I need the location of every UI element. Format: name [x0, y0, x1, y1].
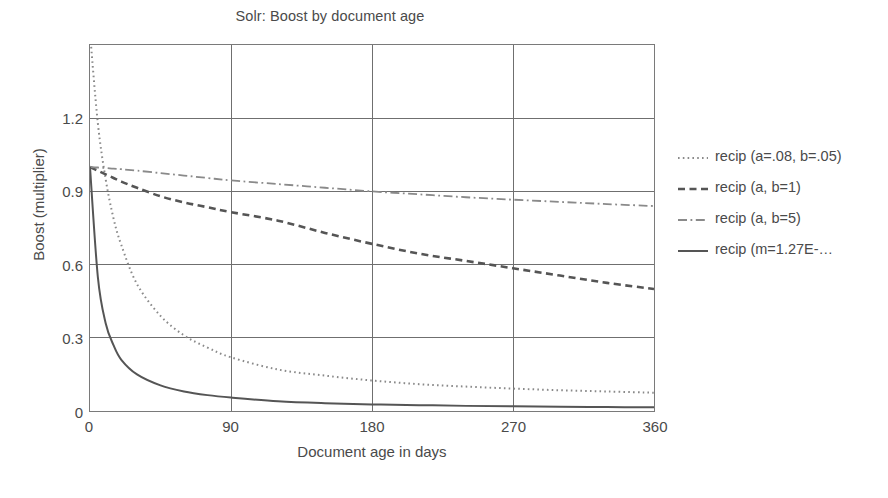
legend-line-style-icon: [678, 181, 708, 193]
legend-swatch-icon: [678, 214, 708, 226]
chart-title: Solr: Boost by document age: [0, 8, 660, 24]
y-tick-label: 1.2: [39, 109, 83, 126]
y-tick-label: 0.6: [39, 256, 83, 273]
x-tick-label: 90: [201, 418, 261, 435]
legend-item[interactable]: recip (a=.08, b=.05): [678, 140, 888, 171]
legend: recip (a=.08, b=.05)recip (a, b=1)recip …: [678, 140, 888, 264]
chart-root: Solr: Boost by document age Boost (multi…: [0, 0, 888, 498]
legend-item[interactable]: recip (a, b=1): [678, 171, 888, 202]
x-tick-label: 180: [342, 418, 402, 435]
series-line-2: [90, 167, 654, 206]
legend-item[interactable]: recip (a, b=5): [678, 202, 888, 233]
legend-item-label: recip (a=.08, b=.05): [715, 148, 842, 164]
y-tick-label: 0.9: [39, 183, 83, 200]
y-tick-label: 0.3: [39, 330, 83, 347]
x-tick-label: 360: [625, 418, 685, 435]
series-line-0: [90, 45, 654, 393]
legend-line-style-icon: [678, 243, 708, 255]
x-tick-label: 0: [59, 418, 119, 435]
legend-swatch-icon: [678, 152, 708, 164]
legend-swatch-icon: [678, 245, 708, 257]
x-tick-label: 270: [484, 418, 544, 435]
legend-line-style-icon: [678, 212, 708, 224]
legend-item-label: recip (a, b=5): [715, 210, 801, 226]
plot-area: [89, 44, 655, 412]
legend-line-style-icon: [678, 150, 708, 162]
series-curves: [90, 45, 654, 411]
legend-item-label: recip (a, b=1): [715, 179, 801, 195]
legend-item[interactable]: recip (m=1.27E-…: [678, 233, 888, 264]
series-line-1: [90, 167, 654, 289]
legend-swatch-icon: [678, 183, 708, 195]
legend-item-label: recip (m=1.27E-…: [715, 241, 833, 257]
x-axis-title: Document age in days: [89, 443, 655, 460]
